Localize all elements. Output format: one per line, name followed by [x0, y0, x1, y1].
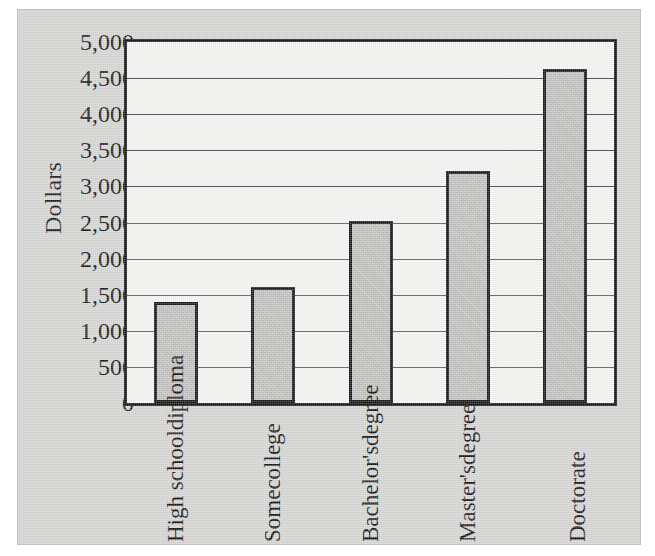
- x-axis-label-line: college: [260, 423, 286, 489]
- y-axis-tick-label: 2,000: [46, 247, 134, 271]
- y-axis-tick-label: 1,000: [46, 319, 134, 343]
- bar-2[interactable]: [251, 287, 295, 403]
- x-axis-label-line: Master's: [455, 465, 481, 542]
- bar-4[interactable]: [446, 171, 490, 403]
- gridline: [127, 114, 614, 115]
- bar-5[interactable]: [543, 69, 587, 403]
- y-axis-tick-label: 3,500: [46, 138, 134, 162]
- x-axis-label-line: Doctorate: [565, 451, 591, 542]
- gridline: [127, 186, 614, 187]
- gridline: [127, 150, 614, 151]
- bar-3[interactable]: [349, 221, 393, 403]
- x-axis-label-line: High school: [163, 430, 189, 542]
- x-axis-label-line: degree: [358, 385, 384, 446]
- y-axis-tick-label: 2,500: [46, 211, 134, 235]
- chart-page: Dollars 05001,0001,5002,0002,5003,0003,5…: [0, 0, 655, 556]
- x-axis-label-line: Some: [260, 490, 286, 542]
- chart-panel: Dollars 05001,0001,5002,0002,5003,0003,5…: [17, 9, 641, 545]
- gridline: [127, 78, 614, 79]
- y-axis-tick-label: 4,000: [46, 102, 134, 126]
- y-axis-tick-label: 5,000: [46, 30, 134, 54]
- y-axis-tick-label: 3,000: [46, 174, 134, 198]
- y-axis-tick-label: 4,500: [46, 66, 134, 90]
- plot-area: [124, 39, 617, 406]
- x-axis-label-line: diploma: [163, 355, 189, 430]
- x-axis-label-line: degree: [455, 404, 481, 465]
- y-axis-tick-label: 1,500: [46, 283, 134, 307]
- x-axis-category-labels: High schooldiplomaSomecollegeBachelor'sd…: [124, 408, 617, 548]
- y-axis-tick-label: 0: [46, 391, 134, 415]
- y-axis-tick-labels: 05001,0001,5002,0002,5003,0003,5004,0004…: [42, 10, 134, 546]
- x-axis-label-line: Bachelor's: [358, 446, 384, 542]
- plot-inner: [127, 42, 614, 403]
- y-axis-tick-label: 500: [46, 355, 134, 379]
